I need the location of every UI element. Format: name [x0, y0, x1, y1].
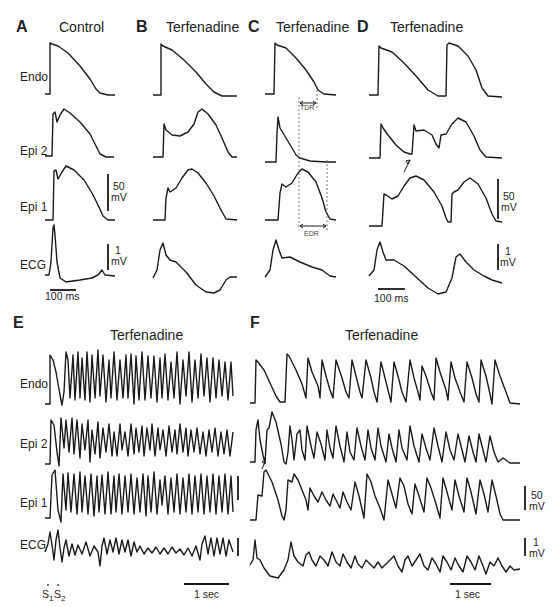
trace-b-epi1: [153, 169, 237, 220]
trace-b-epi2: [153, 109, 237, 157]
trace-a-epi1: [45, 166, 115, 220]
trace-b-endo: [153, 44, 237, 96]
trace-a-epi2: [45, 109, 114, 157]
trace-e-ecg: [45, 530, 233, 566]
s1-marker-dot: [47, 584, 49, 586]
trace-a-ecg: [45, 225, 115, 282]
trace-d-epi2: [369, 118, 502, 158]
trace-e-epi2: [45, 418, 233, 466]
trace-b-ecg: [153, 243, 237, 293]
trace-c-epi1: [265, 169, 336, 220]
arrow-d-head-icon: [406, 160, 410, 164]
arrow-f-head-icon: [262, 460, 265, 464]
trace-c-epi2: [265, 117, 336, 162]
trace-e-epi1: [45, 470, 233, 522]
trace-d-ecg: [369, 242, 502, 294]
trace-f-epi2: [250, 412, 520, 464]
trace-f-endo: [250, 354, 520, 404]
edr-arrow: [300, 224, 326, 228]
trace-c-ecg: [265, 240, 336, 277]
trace-f-ecg: [250, 540, 520, 578]
s2-marker-dot: [57, 584, 59, 586]
trace-a-endo: [45, 43, 115, 95]
trace-e-endo: [45, 350, 233, 405]
trace-canvas: [0, 0, 558, 607]
tdr-arrow: [300, 101, 316, 105]
trace-f-epi1: [250, 470, 520, 520]
trace-d-epi1: [369, 176, 502, 226]
trace-d-endo: [369, 43, 502, 97]
trace-c-endo: [265, 43, 336, 95]
